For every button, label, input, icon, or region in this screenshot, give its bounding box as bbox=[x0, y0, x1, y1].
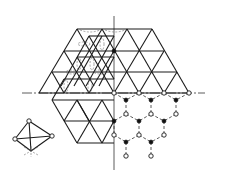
open-atom-site bbox=[112, 91, 116, 95]
filled-atom-site bbox=[112, 49, 116, 53]
open-atom-site bbox=[149, 112, 153, 116]
open-atom-site bbox=[137, 133, 141, 137]
open-atom-site bbox=[137, 91, 141, 95]
filled-atom-site bbox=[124, 98, 128, 102]
open-atom-site bbox=[112, 133, 116, 137]
open-atom-site bbox=[27, 119, 31, 123]
open-atom-site bbox=[187, 91, 191, 95]
open-atom-site bbox=[124, 154, 128, 158]
open-atom-site bbox=[162, 133, 166, 137]
filled-atom-site bbox=[112, 119, 116, 123]
lattice-diagram bbox=[0, 0, 225, 178]
filled-atom-site bbox=[124, 140, 128, 144]
open-atom-site bbox=[174, 112, 178, 116]
filled-atom-site bbox=[162, 119, 166, 123]
filled-atom-site bbox=[174, 98, 178, 102]
open-atom-site bbox=[162, 91, 166, 95]
open-atom-site bbox=[13, 137, 17, 141]
tetrahedron-inset bbox=[13, 119, 54, 157]
open-atom-site bbox=[124, 112, 128, 116]
open-atom-site bbox=[149, 154, 153, 158]
filled-atom-site bbox=[149, 140, 153, 144]
honeycomb-bonds bbox=[114, 93, 189, 156]
filled-atom-site bbox=[149, 98, 153, 102]
open-atom-site bbox=[50, 134, 54, 138]
filled-atom-site bbox=[137, 119, 141, 123]
lattice-svg bbox=[0, 0, 225, 178]
